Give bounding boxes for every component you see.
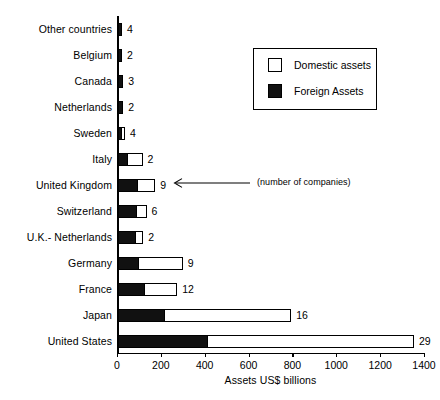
category-label-wrap: Other countries xyxy=(0,16,112,42)
x-tick xyxy=(161,353,162,357)
bar-segment-foreign xyxy=(118,309,165,322)
category-label-wrap: Switzerland xyxy=(0,198,112,224)
legend-label-foreign: Foreign Assets xyxy=(294,83,363,99)
bar-value-label: 3 xyxy=(123,68,134,94)
x-tick xyxy=(336,353,337,357)
stacked-bar xyxy=(118,146,143,172)
stacked-bar xyxy=(118,198,147,224)
legend-item-foreign: Foreign Assets xyxy=(268,83,378,99)
category-label: U.K.- Netherlands xyxy=(0,224,112,250)
category-label: Germany xyxy=(0,250,112,276)
legend-label-domestic: Domestic assets xyxy=(294,57,371,73)
stacked-bar xyxy=(118,250,183,276)
category-label: Sweden xyxy=(0,120,112,146)
bar-value-label: 2 xyxy=(123,94,134,120)
legend-item-domestic: Domestic assets xyxy=(268,57,378,73)
category-label-wrap: Canada xyxy=(0,68,112,94)
category-label: Switzerland xyxy=(0,198,112,224)
x-tick xyxy=(292,353,293,357)
category-label-wrap: United Kingdom xyxy=(0,172,112,198)
bar-segment-foreign xyxy=(118,179,138,192)
category-label-wrap: France xyxy=(0,276,112,302)
bar-row: France12 xyxy=(0,276,440,302)
x-tick-label: 1400 xyxy=(412,359,435,371)
bar-value-label: 6 xyxy=(147,198,158,224)
category-label-wrap: United States xyxy=(0,328,112,354)
x-tick xyxy=(249,353,250,357)
x-tick-label: 800 xyxy=(284,359,302,371)
stacked-bar xyxy=(118,276,177,302)
category-label-wrap: Sweden xyxy=(0,120,112,146)
x-tick-label: 400 xyxy=(196,359,214,371)
bar-segment-foreign xyxy=(118,205,137,218)
category-label-wrap: Netherlands xyxy=(0,94,112,120)
stacked-bar xyxy=(118,328,414,354)
x-tick xyxy=(424,353,425,357)
stacked-bar xyxy=(118,302,291,328)
category-label: United Kingdom xyxy=(0,172,112,198)
annotation-arrow-icon xyxy=(170,176,252,190)
x-tick xyxy=(380,353,381,357)
category-label-wrap: Italy xyxy=(0,146,112,172)
legend-swatch-foreign-icon xyxy=(268,84,282,98)
x-axis-title: Assets US$ billions xyxy=(117,374,424,386)
category-label: Other countries xyxy=(0,16,112,42)
category-label-wrap: Germany xyxy=(0,250,112,276)
bar-chart: Other countries4Belgium2Canada3Netherlan… xyxy=(0,0,440,400)
legend-swatch-domestic-icon xyxy=(268,58,282,72)
category-label: Italy xyxy=(0,146,112,172)
annotation-note: (number of companies) xyxy=(257,177,351,187)
bar-row: Other countries4 xyxy=(0,16,440,42)
bar-row: Italy2 xyxy=(0,146,440,172)
category-label: France xyxy=(0,276,112,302)
category-label: United States xyxy=(0,328,112,354)
bar-segment-foreign xyxy=(118,127,122,140)
legend: Domestic assets Foreign Assets xyxy=(253,48,377,110)
bar-value-label: 4 xyxy=(125,120,136,146)
bar-row: U.K.- Netherlands2 xyxy=(0,224,440,250)
category-label-wrap: Japan xyxy=(0,302,112,328)
bar-row: United States29 xyxy=(0,328,440,354)
bar-row: Japan16 xyxy=(0,302,440,328)
bar-segment-foreign xyxy=(118,257,139,270)
bar-row: Germany9 xyxy=(0,250,440,276)
bar-value-label: 4 xyxy=(122,16,133,42)
bar-value-label: 12 xyxy=(177,276,194,302)
x-tick-label: 200 xyxy=(152,359,170,371)
category-label: Netherlands xyxy=(0,94,112,120)
bar-segment-foreign xyxy=(118,153,128,166)
x-tick-label: 0 xyxy=(114,359,120,371)
bar-segment-foreign xyxy=(118,283,145,296)
category-label-wrap: Belgium xyxy=(0,42,112,68)
bar-value-label: 2 xyxy=(143,224,154,250)
bar-value-label: 29 xyxy=(414,328,431,354)
x-tick-label: 1000 xyxy=(325,359,348,371)
x-tick-label: 600 xyxy=(240,359,258,371)
category-label: Canada xyxy=(0,68,112,94)
stacked-bar xyxy=(118,172,155,198)
x-tick xyxy=(205,353,206,357)
bar-value-label: 9 xyxy=(155,172,166,198)
stacked-bar xyxy=(118,120,125,146)
bar-segment-foreign xyxy=(118,231,136,244)
x-tick xyxy=(117,353,118,357)
bar-value-label: 16 xyxy=(291,302,308,328)
bar-segment-foreign xyxy=(118,335,208,348)
bar-row: Switzerland6 xyxy=(0,198,440,224)
category-label-wrap: U.K.- Netherlands xyxy=(0,224,112,250)
category-label: Belgium xyxy=(0,42,112,68)
x-tick-label: 1200 xyxy=(368,359,391,371)
bar-value-label: 2 xyxy=(143,146,154,172)
stacked-bar xyxy=(118,224,143,250)
bar-value-label: 9 xyxy=(183,250,194,276)
category-label: Japan xyxy=(0,302,112,328)
bar-value-label: 2 xyxy=(122,42,133,68)
bar-row: Sweden4 xyxy=(0,120,440,146)
